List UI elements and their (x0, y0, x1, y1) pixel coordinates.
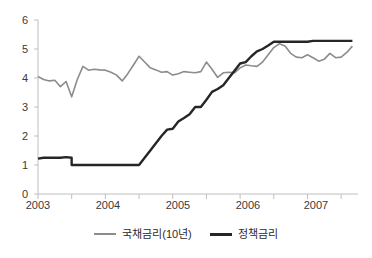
legend-swatch-gray-line-icon (94, 233, 116, 235)
chart-legend: 국채금리(10년) 정책금리 (0, 228, 372, 240)
line-chart: 6 5 4 3 2 1 0 2003 2004 2005 2006 2007 국… (0, 0, 372, 258)
legend-label-government-bond: 국채금리(10년) (122, 228, 192, 240)
xtick-label-2007: 2007 (296, 200, 336, 211)
xtick-label-2004: 2004 (88, 200, 128, 211)
ytick-label-2: 2 (12, 131, 28, 142)
xtick-label-2005: 2005 (158, 200, 198, 211)
ytick-label-1: 1 (12, 160, 28, 171)
chart-axes (34, 20, 358, 199)
legend-item-policy-rate: 정책금리 (210, 228, 278, 240)
xtick-label-2006: 2006 (228, 200, 268, 211)
ytick-label-3: 3 (12, 102, 28, 113)
chart-plot-area (0, 0, 372, 258)
legend-item-government-bond: 국채금리(10년) (94, 228, 192, 240)
ytick-label-4: 4 (12, 73, 28, 84)
chart-series (38, 41, 352, 165)
ytick-label-6: 6 (12, 15, 28, 26)
xtick-label-2003: 2003 (18, 200, 58, 211)
legend-label-policy-rate: 정책금리 (238, 228, 278, 240)
series-line-1 (38, 41, 352, 165)
series-line-0 (38, 44, 352, 97)
legend-swatch-black-line-icon (210, 233, 232, 236)
ytick-label-5: 5 (12, 44, 28, 55)
